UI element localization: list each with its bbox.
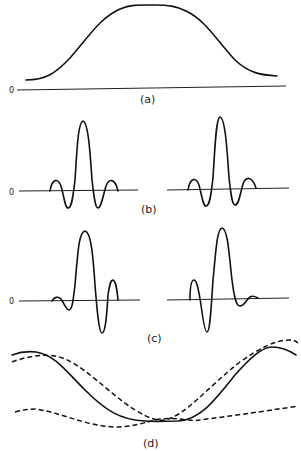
baseline-b-right xyxy=(167,188,289,190)
panel-b: 0 (b) xyxy=(9,117,289,216)
panel-label-a: (a) xyxy=(140,93,155,106)
dashed-curve-lower-d xyxy=(15,406,298,427)
panel-label-c: (c) xyxy=(147,332,162,345)
solid-curve-d xyxy=(12,347,296,421)
zero-label-c: 0 xyxy=(9,297,14,306)
wavelet-b-left xyxy=(50,121,118,208)
wavelet-b-right xyxy=(188,117,256,206)
panel-c: 0 (c) xyxy=(9,228,289,345)
panel-d: (d) xyxy=(12,340,298,450)
zero-label-b: 0 xyxy=(9,188,14,197)
panel-a: 0 (a) xyxy=(9,5,286,106)
envelope-curve xyxy=(26,5,277,80)
figure: 0 (a) 0 (b) 0 (c) (d) xyxy=(0,0,301,451)
baseline-c-left xyxy=(19,300,140,301)
zero-label-a: 0 xyxy=(9,86,14,95)
panel-label-d: (d) xyxy=(143,437,159,450)
panel-label-b: (b) xyxy=(141,203,157,216)
baseline-a xyxy=(17,86,286,90)
baseline-c-right xyxy=(167,298,289,300)
wavelet-c-right xyxy=(190,228,258,332)
wavelet-c-left xyxy=(52,231,118,333)
baseline-b-left xyxy=(19,190,138,191)
dashed-curve-upper-d xyxy=(12,340,298,420)
